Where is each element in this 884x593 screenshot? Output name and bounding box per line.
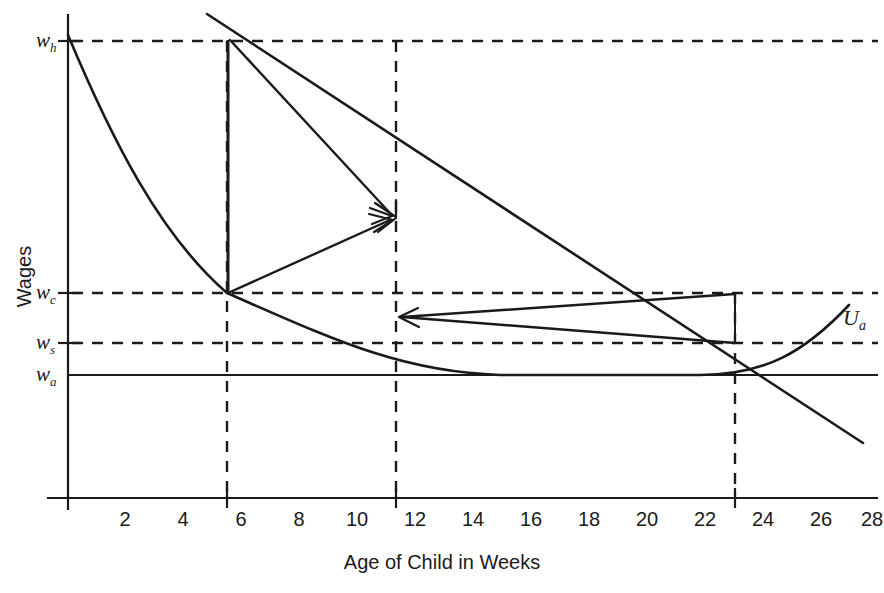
chart-canvas [0,0,884,593]
x-tick-label-12: 12 [395,508,435,531]
y-axis-title: Wages [13,232,36,322]
x-axis-title: Age of Child in Weeks [0,551,884,574]
y-level-label-wa: wa [36,362,57,390]
arrow-wh-to-convergence [230,40,392,224]
curve-label-ua: Ua [843,305,866,334]
x-tick-label-14: 14 [453,508,493,531]
declining-wage-curve [68,35,227,293]
arrow-right-to-left-upper [402,294,735,317]
x-tick-label-10: 10 [337,508,377,531]
x-tick-label-20: 20 [627,508,667,531]
x-tick-label-24: 24 [743,508,783,531]
y-level-label-wh: wh [36,28,57,56]
x-tick-label-26: 26 [801,508,841,531]
x-tick-label-28: 28 [852,508,884,531]
x-tick-label-16: 16 [511,508,551,531]
chart-figure: wh wc ws wa Ua 2 4 6 8 10 12 14 16 18 20… [0,0,884,593]
long-declining-line [207,14,863,443]
x-tick-label-18: 18 [569,508,609,531]
horizontal-guides [68,41,878,375]
x-tick-label-6: 6 [221,508,261,531]
x-tick-label-22: 22 [685,508,725,531]
x-tick-label-8: 8 [279,508,319,531]
vertical-guides [227,41,735,495]
y-level-label-wc: wc [36,280,56,308]
y-level-label-ws: ws [36,330,55,358]
ua-curve [227,293,849,375]
arrow-wc-to-convergence [228,214,393,293]
x-tick-label-4: 4 [163,508,203,531]
axes-group [47,14,878,510]
x-tick-label-2: 2 [105,508,145,531]
